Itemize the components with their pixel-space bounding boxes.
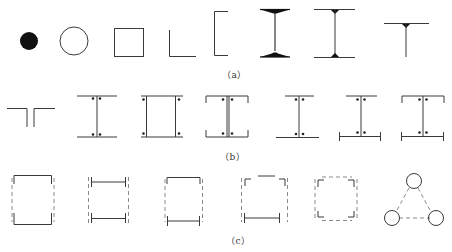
laced-channel-column-icon <box>12 176 54 225</box>
tapered-i-beam-icon <box>260 10 290 58</box>
i-with-channel-cap-icon <box>401 96 444 141</box>
hollow-round-tube-icon <box>60 27 88 55</box>
laced-i-column-icon <box>89 177 129 223</box>
laced-channel-plate-column-icon <box>165 178 203 227</box>
i-with-bottom-plate-icon <box>339 96 381 141</box>
four-angle-laced-column-icon <box>315 177 357 221</box>
square-tube-icon <box>115 29 144 57</box>
i-beam-with-bolts-icon <box>77 96 117 137</box>
t-section-icon <box>384 24 429 58</box>
three-tube-triangular-column-icon <box>385 174 444 226</box>
laced-angle-plate-column-icon <box>242 176 288 223</box>
double-angle-t-icon <box>7 109 55 128</box>
caption-a: （a） <box>222 68 247 81</box>
angle-section-icon <box>170 30 197 57</box>
solid-round-bar-icon <box>20 32 38 50</box>
welded-i-beam-icon <box>314 10 355 58</box>
double-channel-split-icon <box>206 96 248 137</box>
caption-c: （c） <box>226 234 251 247</box>
row-c <box>12 174 444 227</box>
double-channel-box-icon <box>141 96 183 137</box>
row-a <box>20 10 429 58</box>
i-with-unequal-flange-icon <box>276 96 319 138</box>
caption-b: （b） <box>220 150 245 163</box>
row-b <box>7 96 444 141</box>
structural-sections-diagram <box>0 0 452 252</box>
channel-section-icon <box>215 12 229 56</box>
